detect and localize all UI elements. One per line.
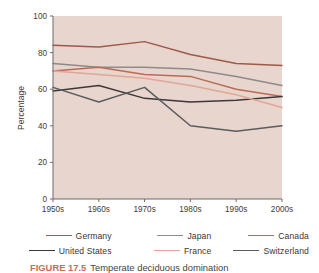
y-tick-label: 40 <box>38 122 48 131</box>
x-tick-label: 1950s <box>42 205 64 214</box>
y-axis-label: Percentage <box>16 86 26 130</box>
x-tick-label: 2000s <box>271 205 293 214</box>
legend-label-canada: Canada <box>278 231 309 241</box>
y-tick-group: 020406080100 <box>33 12 53 204</box>
legend-item-france[interactable]: France <box>112 246 212 256</box>
legend-swatch-united-states <box>29 250 55 251</box>
line-chart: 020406080100 1950s1960s1970s1980s1990s20… <box>0 0 319 225</box>
y-tick-label: 100 <box>33 12 47 21</box>
legend-label-switzerland: Switzerland <box>263 246 309 256</box>
figure-caption-text: Temperate deciduous domination <box>90 262 228 273</box>
figure-caption: FIGURE 17.5Temperate deciduous dominatio… <box>30 262 319 273</box>
legend-label-japan: Japan <box>187 231 211 241</box>
x-tick-group: 1950s1960s1970s1980s1990s2000s <box>42 199 293 214</box>
x-tick-label: 1990s <box>225 205 247 214</box>
x-tick-label: 1960s <box>88 205 110 214</box>
y-tick-label: 0 <box>42 195 47 204</box>
y-tick-label: 60 <box>38 85 48 94</box>
legend-item-japan[interactable]: Japan <box>112 231 212 241</box>
legend-label-united-states: United States <box>59 246 112 256</box>
x-tick-label: 1980s <box>179 205 201 214</box>
legend-swatch-japan <box>157 235 183 236</box>
legend-item-germany[interactable]: Germany <box>0 231 112 241</box>
chart-area: 020406080100 1950s1960s1970s1980s1990s20… <box>0 0 319 225</box>
figure-container: 020406080100 1950s1960s1970s1980s1990s20… <box>0 0 319 273</box>
x-tick-label: 1970s <box>133 205 155 214</box>
legend-swatch-france <box>154 250 180 251</box>
legend-row-2: United States France Switzerland <box>0 243 319 258</box>
y-tick-label: 20 <box>38 158 48 167</box>
chart-legend: Germany Japan Canada United States Franc… <box>0 228 319 261</box>
legend-swatch-switzerland <box>233 250 259 251</box>
legend-item-united-states[interactable]: United States <box>0 246 112 256</box>
legend-label-france: France <box>184 246 211 256</box>
y-tick-label: 80 <box>38 49 48 58</box>
legend-swatch-germany <box>46 235 72 236</box>
legend-row-1: Germany Japan Canada <box>0 228 319 243</box>
legend-swatch-canada <box>248 235 274 236</box>
legend-label-germany: Germany <box>76 231 112 241</box>
figure-caption-number: FIGURE 17.5 <box>30 262 86 273</box>
legend-item-canada[interactable]: Canada <box>211 231 319 241</box>
legend-item-switzerland[interactable]: Switzerland <box>211 246 319 256</box>
